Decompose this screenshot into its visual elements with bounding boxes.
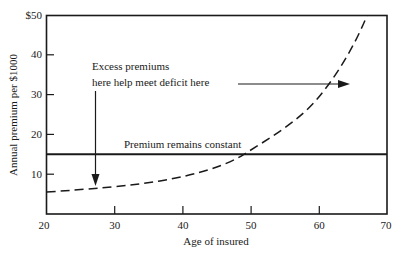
svg-text:30: 30: [109, 219, 121, 231]
svg-text:20: 20: [39, 219, 51, 231]
svg-text:40: 40: [177, 219, 189, 231]
svg-text:10: 10: [31, 168, 43, 180]
svg-text:70: 70: [381, 219, 393, 231]
x-axis-title: Age of insured: [183, 235, 249, 247]
arrow-down-icon: [92, 91, 100, 186]
plot-frame: [47, 16, 388, 215]
rising-cost-curve: [47, 16, 368, 193]
arrow-right-icon: [238, 80, 350, 88]
svg-text:$50: $50: [26, 9, 43, 21]
constant-premium-label: Premium remains constant: [124, 138, 241, 150]
annotation-line-2: here help meet deficit here: [92, 76, 209, 88]
svg-text:40: 40: [31, 48, 43, 60]
svg-text:20: 20: [31, 128, 43, 140]
svg-text:50: 50: [246, 219, 258, 231]
y-tick-labels: 10 20 30 40 $50: [26, 9, 43, 180]
x-axis-ticks: [115, 206, 320, 214]
premium-chart: 10 20 30 40 $50 20 30 40 50 60 70 Age of…: [0, 0, 403, 256]
x-tick-labels: 20 30 40 50 60 70: [39, 219, 393, 231]
svg-text:60: 60: [314, 219, 326, 231]
y-axis-ticks: [47, 55, 55, 174]
y-axis-title: Annual premium per $1000: [7, 54, 19, 176]
annotation-line-1: Excess premiums: [92, 60, 169, 72]
svg-text:30: 30: [31, 88, 43, 100]
